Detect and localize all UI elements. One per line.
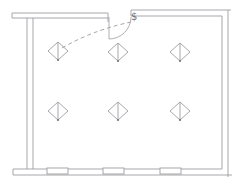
wiring-dashed-line (62, 22, 131, 48)
window-sill (160, 168, 181, 174)
floor-plan-drawing: $ (0, 0, 241, 186)
fixture-bottom-node (117, 119, 119, 121)
fixture-bottom-node (117, 60, 119, 62)
door-swing-arc (109, 17, 131, 39)
floor-plan-sheet: $ (0, 0, 241, 186)
fixture-bottom-node (57, 119, 59, 121)
switch-symbol: $ (131, 11, 137, 22)
fixture-bottom-node (179, 119, 181, 121)
window-sill (103, 168, 124, 174)
fixture-bottom-node (179, 60, 181, 62)
window-sill (47, 168, 68, 174)
fixture-bottom-node (57, 59, 59, 61)
